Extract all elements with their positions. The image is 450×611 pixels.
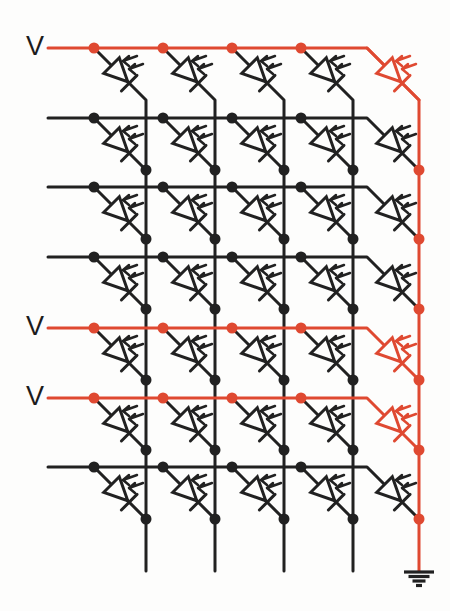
diode-r2c5 [377, 126, 416, 161]
diode-r7c3-arrow-2 [267, 483, 281, 493]
diode-r6c1-arrow-2 [129, 414, 143, 424]
diode-r5c3 [242, 336, 281, 371]
diode-r4c5 [377, 265, 416, 300]
junction-dot-tap-r2c3 [227, 113, 238, 124]
diode-r4c3 [242, 265, 281, 300]
junction-dot-tap-r4c2 [158, 252, 169, 263]
diode-r6c5-light-arrows-icon [396, 406, 416, 424]
diode-r6c3 [242, 406, 281, 441]
diode-r3c2-light-arrows-icon [192, 195, 212, 213]
diode-r6c3-arrow-2 [267, 414, 281, 424]
diode-r3c3-arrow-2 [267, 203, 281, 213]
junction-dot-tap-r2c4 [296, 113, 307, 124]
diode-r2c1-arrow-2 [129, 134, 143, 144]
diode-r5c3-light-arrows-icon [261, 336, 281, 354]
junction-dot-landing-r4c5 [414, 304, 425, 315]
diode-r1c3-light-arrows-icon [261, 56, 281, 74]
diode-r2c1-light-arrows-icon [123, 126, 143, 144]
junction-dot-tap-r6c4 [296, 393, 307, 404]
diode-r3c1-light-arrows-icon [123, 195, 143, 213]
junction-dot-landing-r2c1 [141, 165, 152, 176]
diode-r4c5-light-arrows-icon [396, 265, 416, 283]
diode-r2c4-arrow-2 [336, 134, 350, 144]
diode-r1c1-light-arrows-icon [123, 56, 143, 74]
diode-r3c4 [311, 195, 350, 230]
junction-dot-landing-r7c5 [414, 514, 425, 525]
diode-r2c2-arrow-2 [198, 134, 212, 144]
diode-r4c3-light-arrows-icon [261, 265, 281, 283]
diode-r5c4 [311, 336, 350, 371]
junction-dot-tap-r3c2 [158, 182, 169, 193]
diode-matrix-schematic: VVV [0, 0, 450, 611]
diode-r2c4 [311, 126, 350, 161]
junction-dot-landing-r3c3 [279, 234, 290, 245]
junction-dot-landing-r3c5 [414, 234, 425, 245]
junction-dot-tap-r7c3 [227, 462, 238, 473]
junction-dot-landing-r6c2 [210, 445, 221, 456]
diode-r4c1 [104, 265, 143, 300]
diode-r7c3 [242, 475, 281, 510]
junction-dot-tap-r1c3 [227, 43, 238, 54]
junction-dot-landing-r5c5 [414, 375, 425, 386]
row-voltage-label-5: V [26, 311, 44, 341]
diode-r5c1 [104, 336, 143, 371]
diode-r5c5-arrow-2 [402, 344, 416, 354]
diode-r7c1 [104, 475, 143, 510]
junction-dot-landing-r6c4 [348, 445, 359, 456]
junction-dot-tap-r6c1 [89, 393, 100, 404]
junction-dot-tap-r7c4 [296, 462, 307, 473]
junction-dot-tap-r6c3 [227, 393, 238, 404]
junction-dot-tap-r1c4 [296, 43, 307, 54]
diode-r1c3 [242, 56, 281, 91]
junction-dot-landing-r3c2 [210, 234, 221, 245]
row-voltage-label-1: V [26, 31, 44, 61]
junction-dot-tap-r1c2 [158, 43, 169, 54]
diode-r1c1-arrow-2 [129, 64, 143, 74]
diode-r4c3-arrow-2 [267, 273, 281, 283]
diode-r6c1 [104, 406, 143, 441]
diode-r1c2-arrow-2 [198, 64, 212, 74]
diode-r2c5-light-arrows-icon [396, 126, 416, 144]
diode-r4c4 [311, 265, 350, 300]
diode-r7c3-light-arrows-icon [261, 475, 281, 493]
ground-symbol-icon [404, 572, 434, 586]
diode-r6c4 [311, 406, 350, 441]
diode-r1c4 [311, 56, 350, 91]
diode-r4c2-arrow-2 [198, 273, 212, 283]
diode-r1c4-light-arrows-icon [330, 56, 350, 74]
diode-r5c3-arrow-2 [267, 344, 281, 354]
diode-r2c3-arrow-2 [267, 134, 281, 144]
junction-dot-landing-r4c3 [279, 304, 290, 315]
diode-r7c4-light-arrows-icon [330, 475, 350, 493]
junction-dot-tap-r3c4 [296, 182, 307, 193]
diode-r3c2-arrow-2 [198, 203, 212, 213]
diode-r5c5-light-arrows-icon [396, 336, 416, 354]
diode-r4c5-arrow-2 [402, 273, 416, 283]
diode-r4c4-light-arrows-icon [330, 265, 350, 283]
diode-r7c4 [311, 475, 350, 510]
junction-dot-landing-r2c2 [210, 165, 221, 176]
diode-r6c1-light-arrows-icon [123, 406, 143, 424]
diode-r1c3-arrow-2 [267, 64, 281, 74]
diode-r5c2 [173, 336, 212, 371]
diode-r6c2 [173, 406, 212, 441]
junction-dot-landing-r6c3 [279, 445, 290, 456]
junction-dot-tap-r5c1 [89, 323, 100, 334]
diode-r1c1 [104, 56, 143, 91]
diode-r2c2 [173, 126, 212, 161]
diode-r6c2-arrow-2 [198, 414, 212, 424]
junction-dot-landing-r4c1 [141, 304, 152, 315]
junction-dot-landing-r6c5 [414, 445, 425, 456]
diode-r3c5 [377, 195, 416, 230]
diode-r4c1-arrow-2 [129, 273, 143, 283]
diode-r1c4-arrow-2 [336, 64, 350, 74]
junction-dot-landing-r7c4 [348, 514, 359, 525]
junction-dot-landing-r6c1 [141, 445, 152, 456]
diode-r5c2-arrow-2 [198, 344, 212, 354]
diode-r7c2-light-arrows-icon [192, 475, 212, 493]
junction-dot-tap-r2c2 [158, 113, 169, 124]
diode-r3c4-light-arrows-icon [330, 195, 350, 213]
diode-r5c4-light-arrows-icon [330, 336, 350, 354]
diode-r2c3-light-arrows-icon [261, 126, 281, 144]
junction-dot-landing-r3c1 [141, 234, 152, 245]
